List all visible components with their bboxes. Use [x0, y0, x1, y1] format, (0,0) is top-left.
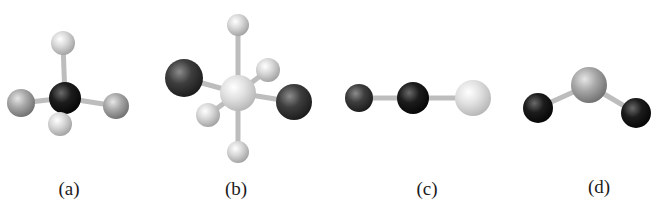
panel-label-a: (a): [58, 178, 79, 200]
atom-dark: [345, 84, 373, 112]
atom-light: [196, 103, 220, 127]
molecule-figure: [0, 0, 658, 213]
atom-black: [523, 93, 553, 123]
molecule-a-tetrahedral: [7, 31, 129, 136]
atom-black: [49, 82, 81, 114]
atom-light: [256, 58, 280, 82]
atom-mid: [571, 67, 607, 103]
panel-label-b: (b): [225, 178, 247, 200]
molecule-b-octahedral: [165, 14, 312, 163]
molecule-c-linear: [345, 80, 491, 116]
atom-pale: [220, 75, 256, 111]
molecule-d-bent: [523, 67, 651, 128]
atom-light: [227, 141, 249, 163]
panel-label-c: (c): [416, 178, 437, 200]
atom-light: [48, 112, 72, 136]
panel-label-d: (d): [588, 176, 610, 198]
atom-black: [621, 98, 651, 128]
atom-dark: [165, 59, 203, 97]
atom-mid: [103, 93, 129, 119]
atom-mid: [7, 89, 35, 117]
atom-dark: [276, 84, 312, 120]
atom-light: [227, 14, 249, 36]
atom-pale: [455, 80, 491, 116]
atom-light: [51, 31, 75, 55]
atom-black: [397, 82, 429, 114]
